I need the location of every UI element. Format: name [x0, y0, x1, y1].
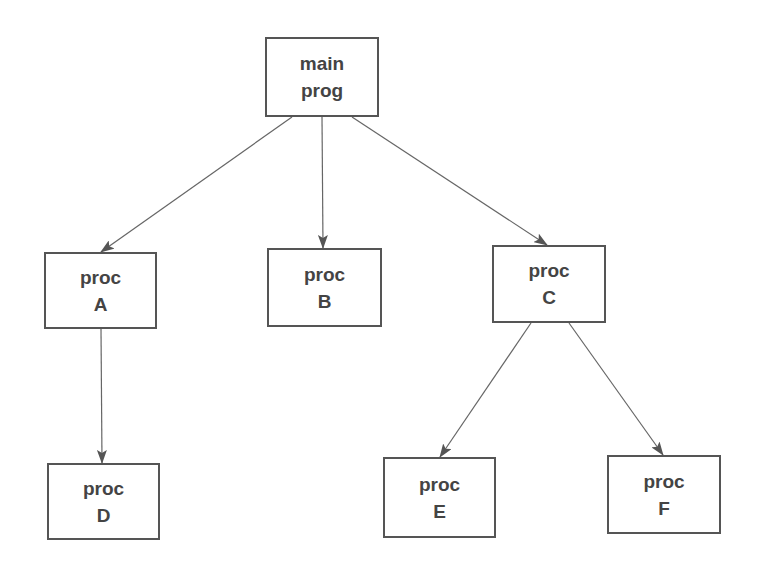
node-label-line1: proc	[419, 471, 460, 498]
node-label-line1: proc	[80, 264, 121, 291]
node-proc-d: proc D	[47, 463, 160, 540]
node-label-line2: prog	[301, 77, 343, 104]
edge-c-to-f	[569, 323, 663, 455]
node-label-line2: D	[97, 502, 111, 529]
node-main-prog: main prog	[265, 37, 379, 117]
node-proc-b: proc B	[267, 248, 382, 327]
node-label-line2: E	[433, 498, 446, 525]
edge-main-to-a	[101, 117, 292, 252]
node-proc-e: proc E	[383, 457, 496, 538]
edge-main-to-c	[352, 117, 547, 245]
node-label-line2: B	[318, 288, 332, 315]
node-proc-c: proc C	[492, 245, 606, 323]
node-label-line1: proc	[304, 261, 345, 288]
node-label-line1: proc	[528, 257, 569, 284]
node-label-line2: F	[658, 495, 670, 522]
node-proc-a: proc A	[44, 252, 157, 329]
node-label-line2: C	[542, 284, 556, 311]
node-label-line1: proc	[83, 475, 124, 502]
node-label-line1: proc	[643, 468, 684, 495]
edge-c-to-e	[440, 323, 531, 457]
node-label-line1: main	[300, 50, 344, 77]
node-proc-f: proc F	[607, 455, 721, 534]
node-label-line2: A	[94, 291, 108, 318]
edge-a-to-d	[101, 329, 102, 463]
edge-main-to-b	[322, 117, 323, 248]
